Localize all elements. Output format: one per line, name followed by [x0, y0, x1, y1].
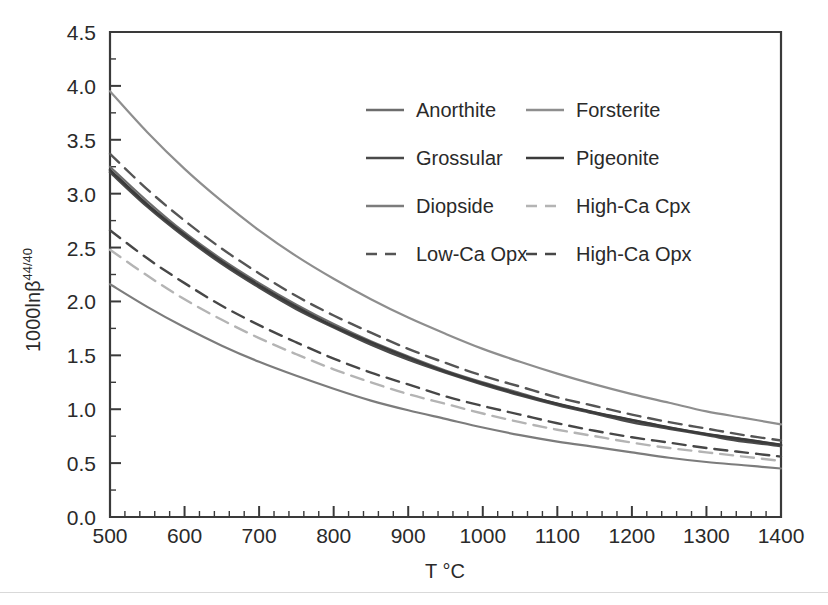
y-tick-label: 4.0 — [67, 75, 96, 98]
y-tick-label: 0.5 — [67, 452, 96, 475]
x-tick-label: 700 — [242, 524, 277, 547]
legend-label: Low-Ca Opx — [416, 243, 527, 265]
x-tick-label: 800 — [316, 524, 351, 547]
figure-container: 50060070080090010001100120013001400 0.00… — [0, 0, 828, 605]
legend-label: Pigeonite — [576, 147, 659, 169]
legend-label: Diopside — [416, 195, 494, 217]
legend-item-forsterite[interactable]: Forsterite — [526, 99, 660, 121]
legend-label: Forsterite — [576, 99, 660, 121]
y-tick-label: 2.5 — [67, 237, 96, 260]
line-chart: 50060070080090010001100120013001400 0.00… — [0, 0, 828, 605]
legend-item-grossular[interactable]: Grossular — [366, 147, 503, 169]
y-tick-label: 0.0 — [67, 506, 96, 529]
chart-legend: AnorthiteForsteriteGrossularPigeoniteDio… — [366, 99, 692, 265]
y-tick-label: 2.0 — [67, 290, 96, 313]
curve-diopside — [110, 284, 781, 468]
legend-item-diopside[interactable]: Diopside — [366, 195, 494, 217]
legend-item-pigeonite[interactable]: Pigeonite — [526, 147, 659, 169]
legend-label: Anorthite — [416, 99, 496, 121]
legend-item-high-ca-cpx[interactable]: High-Ca Cpx — [526, 195, 690, 217]
scan-artifact-line — [0, 592, 828, 593]
x-tick-label: 1200 — [609, 524, 656, 547]
x-axis-title: T °C — [425, 560, 465, 582]
x-axis-ticks — [110, 506, 781, 517]
x-tick-label: 500 — [92, 524, 127, 547]
y-axis-ticks — [110, 32, 121, 517]
legend-label: High-Ca Cpx — [576, 195, 690, 217]
x-tick-label: 900 — [391, 524, 426, 547]
y-tick-label: 1.5 — [67, 344, 96, 367]
legend-item-high-ca-opx[interactable]: High-Ca Opx — [526, 243, 692, 265]
x-tick-label: 1100 — [535, 524, 580, 547]
x-tick-label: 1400 — [758, 524, 805, 547]
legend-item-anorthite[interactable]: Anorthite — [366, 99, 496, 121]
y-tick-label: 1.0 — [67, 398, 96, 421]
y-tick-label: 4.5 — [67, 21, 96, 44]
y-axis-tick-labels: 0.00.51.01.52.02.53.03.54.04.5 — [67, 21, 96, 529]
y-tick-label: 3.5 — [67, 129, 96, 152]
x-tick-label: 1300 — [683, 524, 730, 547]
y-tick-label: 3.0 — [67, 183, 96, 206]
x-tick-label: 600 — [167, 524, 202, 547]
legend-label: High-Ca Opx — [576, 243, 692, 265]
legend-label: Grossular — [416, 147, 503, 169]
x-axis-tick-labels: 50060070080090010001100120013001400 — [92, 524, 804, 547]
legend-item-low-ca-opx[interactable]: Low-Ca Opx — [366, 243, 527, 265]
y-axis-title: 1000lnβ44/40 — [20, 248, 44, 352]
x-tick-label: 1000 — [459, 524, 506, 547]
